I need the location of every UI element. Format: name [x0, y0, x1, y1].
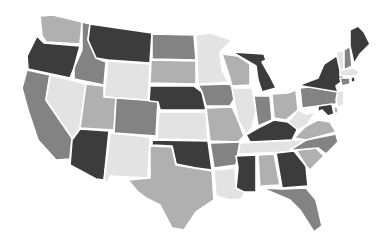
state-MD[interactable] — [318, 104, 334, 116]
state-SD[interactable] — [150, 60, 196, 84]
state-NJ[interactable] — [336, 90, 344, 108]
state-MA[interactable] — [340, 68, 360, 76]
state-MT[interactable] — [88, 24, 152, 63]
state-AR[interactable] — [210, 142, 240, 168]
state-ND[interactable] — [152, 34, 196, 60]
state-DE[interactable] — [334, 106, 338, 114]
state-RI[interactable] — [351, 77, 355, 82]
state-NM[interactable] — [104, 133, 150, 182]
state-MS[interactable] — [236, 155, 256, 192]
map-canvas — [0, 0, 392, 246]
us-choropleth-map — [0, 0, 392, 246]
state-CT[interactable] — [340, 78, 350, 86]
state-AZ[interactable] — [70, 129, 109, 180]
state-ME[interactable] — [350, 26, 370, 64]
state-WY[interactable] — [104, 61, 150, 100]
state-KS[interactable] — [157, 112, 208, 140]
state-WA[interactable] — [40, 15, 82, 44]
state-CO[interactable] — [114, 98, 158, 136]
state-FL[interactable] — [262, 188, 322, 232]
